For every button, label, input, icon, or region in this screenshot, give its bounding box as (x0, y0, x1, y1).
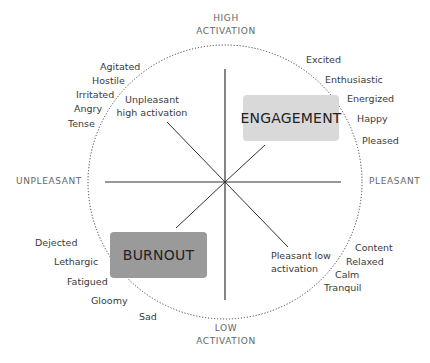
quadrant-label-unpleasant-high: Unpleasant high activation (116, 93, 188, 119)
emotion-excited: Excited (306, 54, 341, 66)
emotion-gloomy: Gloomy (91, 295, 128, 307)
emotion-dejected: Dejected (35, 237, 77, 249)
emotion-irritated: Irritated (76, 89, 114, 101)
diagonal-line-upper-right (225, 145, 265, 182)
emotion-agitated: Agitated (100, 61, 140, 73)
emotion-hostile: Hostile (92, 75, 125, 87)
emotion-sad: Sad (139, 311, 157, 323)
emotion-calm: Calm (335, 269, 359, 281)
emotion-relaxed: Relaxed (346, 256, 384, 268)
emotion-tranquil: Tranquil (324, 282, 362, 294)
emotion-angry: Angry (74, 103, 102, 115)
emotion-enthusiastic: Enthusiastic (325, 74, 383, 86)
diagonal-line-lower-left (176, 182, 225, 228)
emotion-pleased: Pleased (362, 135, 399, 147)
diagonal-line-lower-right (225, 182, 288, 247)
emotion-happy: Happy (357, 113, 388, 125)
emotion-fatigued: Fatigued (67, 276, 108, 288)
diagonal-line-upper-left (167, 122, 225, 182)
emotion-tense: Tense (68, 118, 95, 130)
burnout-label: BURNOUT (123, 247, 194, 263)
emotion-energized: Energized (347, 93, 394, 105)
burnout-box: BURNOUT (110, 232, 207, 278)
engagement-box: ENGAGEMENT (243, 95, 339, 141)
axis-label-pleasant: PLEASANT (369, 175, 420, 188)
emotion-content: Content (355, 242, 393, 254)
axis-label-high-activation: HIGH ACTIVATION (186, 12, 266, 38)
axis-label-unpleasant: UNPLEASANT (16, 175, 82, 188)
axis-label-low-activation: LOW ACTIVATION (186, 322, 266, 348)
emotion-lethargic: Lethargic (54, 256, 98, 268)
quadrant-label-pleasant-low: Pleasant low activation (271, 249, 331, 275)
engagement-label: ENGAGEMENT (240, 110, 341, 126)
